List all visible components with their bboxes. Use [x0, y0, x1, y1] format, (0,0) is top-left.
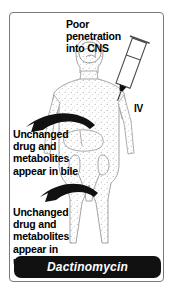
iv-label: IV — [134, 103, 143, 115]
diagram-page: Poor penetration into CNS Unchanged drug… — [0, 0, 176, 294]
bile-annotation: Unchanged drug and metabolites appear in… — [13, 128, 78, 177]
cns-annotation: Poor penetration into CNS — [66, 18, 121, 54]
drug-name-label: Dactinomycin — [14, 256, 161, 278]
drug-name-bar: Dactinomycin — [14, 256, 161, 278]
diagram-card: Poor penetration into CNS Unchanged drug… — [9, 12, 164, 282]
